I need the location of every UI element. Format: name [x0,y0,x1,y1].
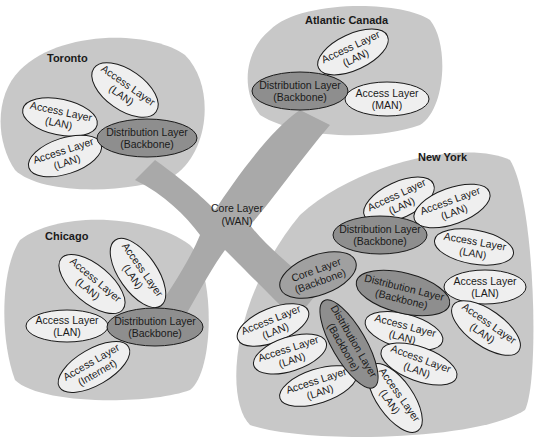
svg-text:(WAN): (WAN) [221,215,252,227]
svg-text:(LAN): (LAN) [53,326,80,338]
svg-text:(LAN): (LAN) [471,287,498,299]
svg-text:Distribution Layer: Distribution Layer [114,315,196,327]
svg-text:Access Layer: Access Layer [355,87,419,99]
svg-text:Access Layer: Access Layer [453,275,517,287]
svg-text:(MAN): (MAN) [372,99,402,111]
atlantic-distribution: Distribution Layer (Backbone) [252,72,348,110]
newyork-access-4: Access Layer (LAN) [444,270,526,304]
network-diagram: Core Layer (WAN) Toronto Access Layer (L… [0,0,541,443]
chicago-access-3: Access Layer (LAN) [26,310,108,342]
svg-text:(Backbone): (Backbone) [273,91,327,103]
svg-text:Distribution Layer: Distribution Layer [339,223,421,235]
newyork-distribution-1: Distribution Layer (Backbone) [333,216,427,254]
region-title-toronto: Toronto [47,52,88,64]
svg-text:(Backbone): (Backbone) [353,235,407,247]
chicago-distribution: Distribution Layer (Backbone) [107,308,203,346]
svg-text:(Backbone): (Backbone) [128,327,182,339]
svg-text:Distribution Layer: Distribution Layer [106,126,188,138]
region-title-chicago: Chicago [45,230,89,242]
toronto-distribution: Distribution Layer (Backbone) [97,119,197,157]
atlantic-access-2: Access Layer (MAN) [345,82,429,116]
svg-text:Distribution Layer: Distribution Layer [259,79,341,91]
svg-text:(Backbone): (Backbone) [120,138,174,150]
svg-text:Access Layer: Access Layer [35,314,99,326]
region-title-new-york: New York [418,151,468,163]
region-title-atlantic-canada: Atlantic Canada [305,14,389,26]
svg-text:Core Layer: Core Layer [211,202,263,214]
